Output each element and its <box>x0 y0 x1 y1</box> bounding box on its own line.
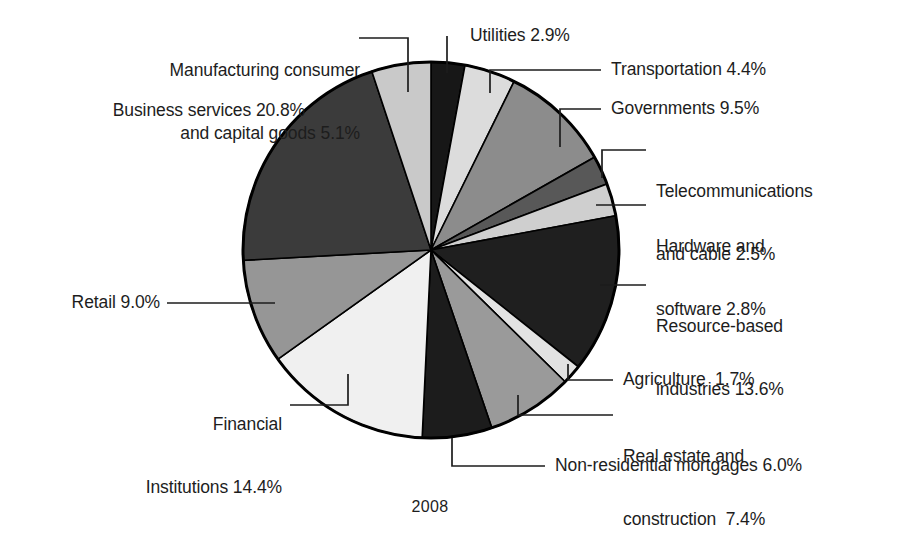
label-financial-institutions: Financial Institutions 14.4% <box>20 372 282 519</box>
label-hardware-line1: Hardware and <box>656 236 766 257</box>
label-financial-line1: Financial <box>20 414 282 435</box>
label-financial-line2: Institutions 14.4% <box>20 477 282 498</box>
label-mortgages: Non-residential mortgages 6.0% <box>555 455 802 476</box>
label-business-services: Business services 20.8% <box>20 100 305 121</box>
label-transportation: Transportation 4.4% <box>611 59 766 80</box>
label-retail: Retail 9.0% <box>20 292 160 313</box>
label-resource-based: Resource-based industries 13.6% <box>656 274 784 421</box>
label-manufacturing-line1: Manufacturing consumer <box>60 60 360 81</box>
label-manufacturing-line2: and capital goods 5.1% <box>60 123 360 144</box>
label-resource-line1: Resource-based <box>656 316 784 337</box>
year-caption: 2008 <box>380 498 480 516</box>
label-utilities: Utilities 2.9% <box>470 25 570 46</box>
label-agriculture: Agriculture 1.7% <box>623 369 755 390</box>
label-manufacturing: Manufacturing consumer and capital goods… <box>60 18 360 165</box>
label-governments: Governments 9.5% <box>611 98 759 119</box>
label-realestate-line2: construction 7.4% <box>623 509 765 530</box>
